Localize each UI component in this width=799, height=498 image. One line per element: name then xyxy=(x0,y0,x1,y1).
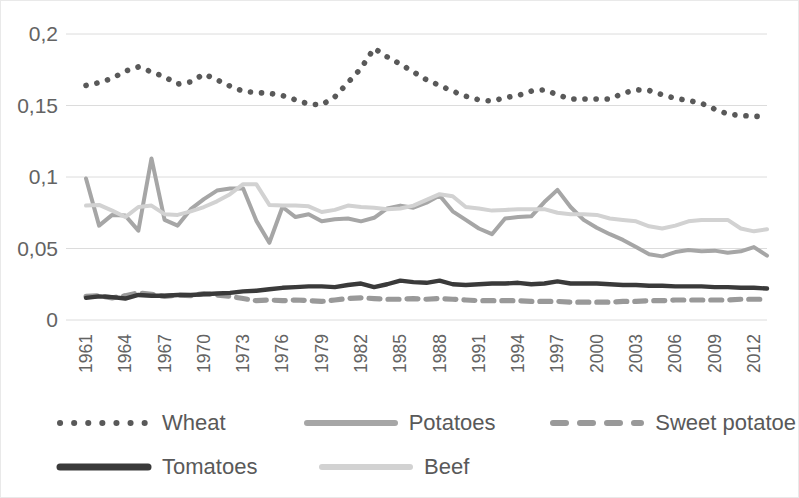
x-tick-label: 1985 xyxy=(390,334,410,373)
legend-marker-solid-icon xyxy=(318,456,414,478)
plot-series-group xyxy=(86,48,767,302)
x-tick-label: 1976 xyxy=(272,334,292,373)
x-tick-label: 1997 xyxy=(547,334,567,373)
x-tick-label: 1973 xyxy=(233,334,253,373)
x-tick-label: 2006 xyxy=(665,334,685,373)
x-tick-label: 1979 xyxy=(312,334,332,373)
x-tick-label: 2012 xyxy=(744,334,764,373)
legend-marker-dashed-icon xyxy=(549,412,645,434)
series-line-tomatoes xyxy=(86,281,767,299)
series-line-potatoes xyxy=(86,158,767,256)
legend-label: Wheat xyxy=(162,410,226,436)
x-tick-label: 1967 xyxy=(155,334,175,373)
x-tick-label: 1982 xyxy=(351,334,371,373)
x-tick-label: 2000 xyxy=(587,334,607,373)
legend-label: Beef xyxy=(424,454,469,480)
legend-item-wheat[interactable]: Wheat xyxy=(56,410,303,436)
x-tick-label: 2009 xyxy=(705,334,725,373)
x-tick-label: 1988 xyxy=(430,334,450,373)
chart-legend: WheatPotatoesSweet potatoeTomatoesBeef xyxy=(56,401,796,489)
x-axis-tick-labels: 1961196419671970197319761979198219851988… xyxy=(76,334,764,373)
x-tick-label: 1994 xyxy=(508,334,528,373)
legend-item-beef[interactable]: Beef xyxy=(318,454,580,480)
y-tick-label: 0,15 xyxy=(17,94,58,117)
x-tick-label: 1991 xyxy=(469,334,489,373)
y-tick-label: 0,05 xyxy=(17,237,58,260)
legend-row: TomatoesBeef xyxy=(56,445,796,489)
legend-item-sweet-potatoe[interactable]: Sweet potatoe xyxy=(549,410,796,436)
legend-label: Tomatoes xyxy=(162,454,257,480)
legend-row: WheatPotatoesSweet potatoe xyxy=(56,401,796,445)
x-tick-label: 2003 xyxy=(626,334,646,373)
series-line-beef xyxy=(86,184,767,231)
x-tick-label: 1961 xyxy=(76,334,96,373)
gridlines xyxy=(66,34,767,320)
y-axis-tick-labels: 00,050,10,150,2 xyxy=(17,22,58,331)
legend-marker-dotted-icon xyxy=(56,412,152,434)
legend-label: Sweet potatoe xyxy=(655,410,796,436)
y-tick-label: 0,1 xyxy=(29,165,58,188)
legend-marker-solid-icon xyxy=(303,412,399,434)
chart-container: 00,050,10,150,2 196119641967197019731976… xyxy=(0,0,799,498)
legend-marker-solid-icon xyxy=(56,456,152,478)
legend-label: Potatoes xyxy=(409,410,496,436)
series-line-wheat xyxy=(86,48,767,117)
x-tick-label: 1970 xyxy=(194,334,214,373)
y-tick-label: 0,2 xyxy=(29,22,58,45)
legend-item-potatoes[interactable]: Potatoes xyxy=(303,410,550,436)
x-tick-label: 1964 xyxy=(115,334,135,373)
legend-item-tomatoes[interactable]: Tomatoes xyxy=(56,454,318,480)
y-tick-label: 0 xyxy=(46,308,58,331)
